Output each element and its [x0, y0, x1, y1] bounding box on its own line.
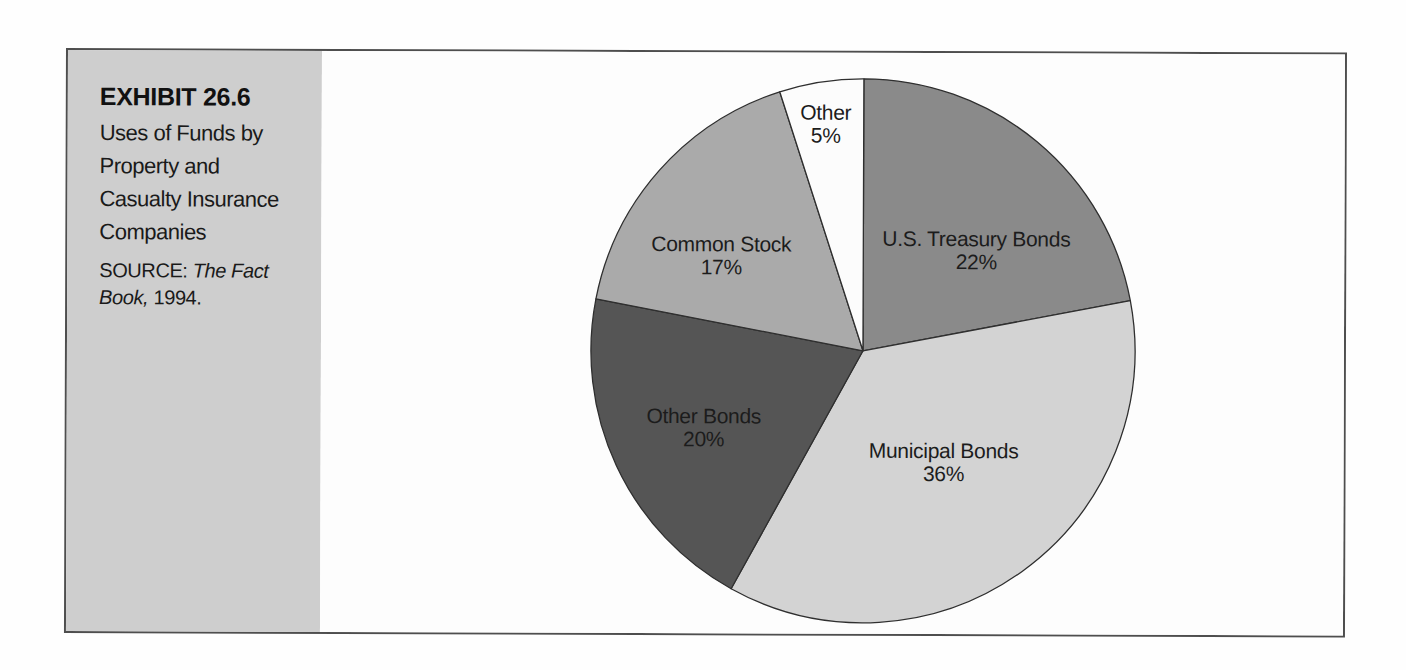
exhibit-title-line-2: Property and: [100, 149, 312, 183]
source-year: 1994.: [153, 286, 201, 308]
exhibit-title: Uses of Funds by Property and Casualty I…: [99, 116, 311, 249]
exhibit-sidebar: EXHIBIT 26.6 Uses of Funds by Property a…: [66, 50, 322, 632]
exhibit-title-line-3: Casualty Insurance: [99, 182, 311, 216]
exhibit-title-line-1: Uses of Funds by: [100, 116, 312, 150]
chart-area: U.S. Treasury Bonds22%Municipal Bonds36%…: [320, 51, 1345, 636]
exhibit-frame: EXHIBIT 26.6 Uses of Funds by Property a…: [64, 48, 1347, 637]
pie-chart: U.S. Treasury Bonds22%Municipal Bonds36%…: [560, 62, 1182, 664]
source-label: SOURCE:: [99, 259, 187, 281]
exhibit-source: SOURCE: The Fact Book, 1994.: [99, 257, 311, 312]
page: EXHIBIT 26.6 Uses of Funds by Property a…: [0, 0, 1406, 670]
exhibit-title-line-4: Companies: [99, 215, 311, 249]
source-title-part1: The Fact: [193, 259, 269, 281]
exhibit-number: EXHIBIT 26.6: [100, 83, 312, 110]
source-title-part2: Book,: [99, 286, 148, 308]
